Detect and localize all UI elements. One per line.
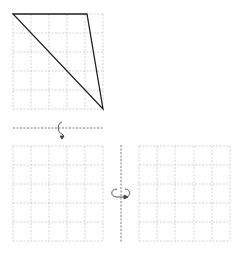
triangle-shape: [13, 14, 103, 109]
rotation-diagram: [0, 0, 241, 260]
rotate-around-horizontal-axis-icon: [58, 122, 64, 139]
bottom-left-grid: [13, 146, 103, 241]
bottom-right-grid: [139, 146, 230, 241]
